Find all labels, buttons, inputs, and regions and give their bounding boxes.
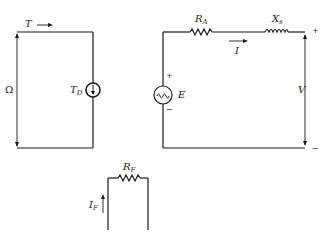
rf-main: R <box>123 161 131 172</box>
resistor-ra-icon <box>190 29 212 35</box>
source-torque-label: TD <box>70 85 82 97</box>
ra-label: RA <box>195 14 208 26</box>
inductor-xs-icon <box>265 30 288 33</box>
circuit-diagram <box>0 0 332 241</box>
ra-main: R <box>195 13 203 24</box>
rf-label: RF <box>123 162 135 174</box>
emf-plus: + <box>166 72 173 80</box>
resistor-rf-icon <box>118 175 140 181</box>
voltage-label: V <box>298 85 305 95</box>
xs-label: Xs <box>272 14 283 26</box>
emf-label: E <box>178 90 185 100</box>
field-circuit <box>101 175 148 230</box>
mechanical-circuit <box>15 23 100 148</box>
speed-label: Ω <box>5 85 13 95</box>
armature-circuit <box>154 29 307 148</box>
ra-sub: A <box>203 18 208 26</box>
torque-label: T <box>25 19 32 29</box>
source-torque-sub: D <box>77 89 83 97</box>
xs-sub: s <box>279 18 283 26</box>
if-sub: F <box>93 204 98 212</box>
rf-sub: F <box>131 166 136 174</box>
terminal-plus: + <box>312 27 319 35</box>
source-torque-main: T <box>70 84 77 95</box>
current-label: I <box>235 46 239 56</box>
terminal-minus: − <box>312 145 319 153</box>
emf-minus: − <box>166 106 173 114</box>
if-label: IF <box>89 200 98 212</box>
